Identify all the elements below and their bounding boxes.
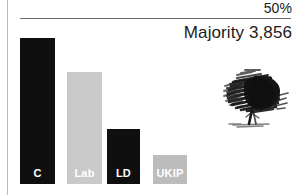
bar-label-c: C xyxy=(33,168,41,184)
oak-tree-sketch-icon xyxy=(211,62,291,132)
bar-label-ukip: UKIP xyxy=(156,168,183,184)
bar-ukip: UKIP xyxy=(153,155,187,184)
bar-c: C xyxy=(20,38,55,184)
election-bar-chart: 50% Majority 3,856 CLabLDUKIP xyxy=(0,0,298,195)
bar-lab: Lab xyxy=(67,72,102,184)
bar-label-ld: LD xyxy=(116,168,131,184)
bar-label-lab: Lab xyxy=(74,168,94,184)
bar-ld: LD xyxy=(107,129,140,184)
